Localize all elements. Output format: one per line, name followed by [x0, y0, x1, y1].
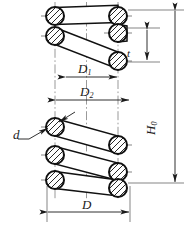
dimension-label-inner-diameter: D1	[78, 62, 91, 75]
dimension-label-wire-diameter: d	[13, 128, 20, 141]
dimension-label-free-length: H0	[144, 122, 157, 135]
spring-drawing-canvas	[0, 0, 188, 231]
dimension-label-outer-diameter: D	[82, 198, 91, 211]
leader-line-coil-pointer	[59, 112, 75, 122]
dimension-label-pitch: t	[127, 48, 130, 59]
dimension-label-mean-diameter: D2	[80, 85, 93, 98]
leader-line-wire-diameter	[18, 128, 48, 139]
spring-technical-drawing: t D1 D2 D d H0	[0, 0, 188, 231]
